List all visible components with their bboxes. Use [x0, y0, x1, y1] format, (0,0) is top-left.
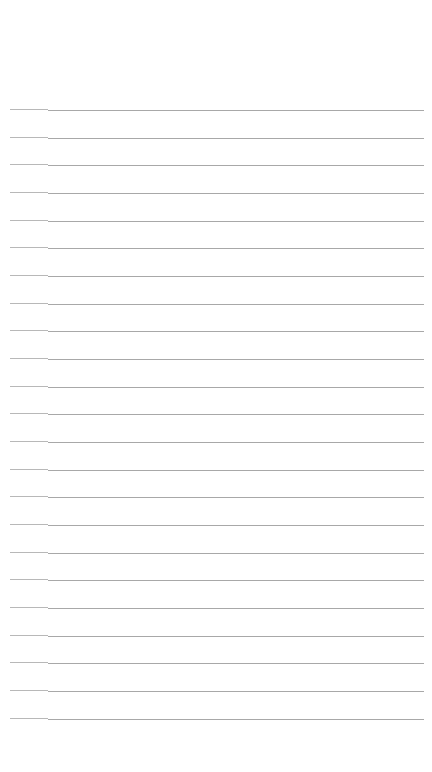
ruled-line-left-segment	[10, 718, 48, 719]
ruled-line-left-segment	[10, 662, 48, 663]
ruled-line-left-segment	[10, 192, 48, 193]
ruled-line-left-segment	[10, 690, 48, 691]
ruled-line-right-segment	[48, 221, 424, 222]
ruled-line	[10, 358, 424, 359]
ruled-line-left-segment	[10, 247, 48, 248]
ruled-line-right-segment	[48, 553, 424, 554]
ruled-line	[10, 220, 424, 221]
ruled-line	[10, 552, 424, 553]
ruled-line-left-segment	[10, 413, 48, 414]
ruled-line	[10, 247, 424, 248]
ruled-line-left-segment	[10, 524, 48, 525]
ruled-line-right-segment	[48, 636, 424, 637]
ruled-line-left-segment	[10, 607, 48, 608]
ruled-line-right-segment	[48, 470, 424, 471]
ruled-line	[10, 579, 424, 580]
ruled-line-right-segment	[48, 248, 424, 249]
ruled-line-left-segment	[10, 358, 48, 359]
ruled-line	[10, 607, 424, 608]
ruled-line-right-segment	[48, 663, 424, 664]
ruled-line-left-segment	[10, 220, 48, 221]
ruled-line-right-segment	[48, 193, 424, 194]
ruled-line	[10, 192, 424, 193]
ruled-line-right-segment	[48, 110, 424, 111]
ruled-line	[10, 718, 424, 719]
ruled-line-left-segment	[10, 330, 48, 331]
ruled-line	[10, 303, 424, 304]
ruled-line	[10, 330, 424, 331]
ruled-line-left-segment	[10, 469, 48, 470]
ruled-line-right-segment	[48, 414, 424, 415]
lined-paper-page	[0, 0, 432, 772]
ruled-line-left-segment	[10, 164, 48, 165]
ruled-line	[10, 662, 424, 663]
ruled-line-left-segment	[10, 137, 48, 138]
ruled-line-left-segment	[10, 109, 48, 110]
ruled-line-left-segment	[10, 579, 48, 580]
ruled-line-right-segment	[48, 138, 424, 139]
ruled-line-right-segment	[48, 442, 424, 443]
ruled-line-right-segment	[48, 691, 424, 692]
ruled-line	[10, 690, 424, 691]
ruled-line-right-segment	[48, 525, 424, 526]
ruled-line	[10, 496, 424, 497]
ruled-line	[10, 164, 424, 165]
ruled-line-left-segment	[10, 552, 48, 553]
ruled-line-right-segment	[48, 359, 424, 360]
ruled-line-right-segment	[48, 304, 424, 305]
ruled-line-right-segment	[48, 331, 424, 332]
ruled-line-right-segment	[48, 276, 424, 277]
ruled-line	[10, 469, 424, 470]
ruled-line	[10, 275, 424, 276]
ruled-line-left-segment	[10, 496, 48, 497]
ruled-line	[10, 635, 424, 636]
ruled-line-right-segment	[48, 580, 424, 581]
ruled-line-left-segment	[10, 386, 48, 387]
ruled-line	[10, 413, 424, 414]
ruled-line-right-segment	[48, 165, 424, 166]
ruled-line-right-segment	[48, 719, 424, 720]
ruled-line	[10, 109, 424, 110]
ruled-line	[10, 137, 424, 138]
ruled-line-right-segment	[48, 497, 424, 498]
ruled-line-right-segment	[48, 608, 424, 609]
ruled-line-left-segment	[10, 635, 48, 636]
ruled-line	[10, 386, 424, 387]
ruled-line-left-segment	[10, 275, 48, 276]
ruled-line-left-segment	[10, 303, 48, 304]
ruled-line-left-segment	[10, 441, 48, 442]
ruled-line	[10, 524, 424, 525]
ruled-line	[10, 441, 424, 442]
ruled-line-right-segment	[48, 387, 424, 388]
